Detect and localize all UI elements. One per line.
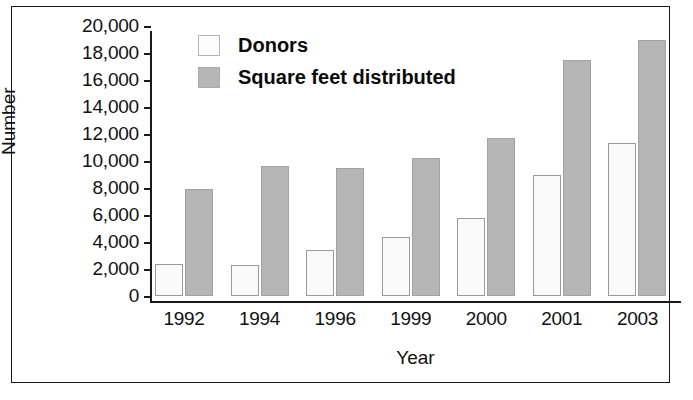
y-axis-tick-label: 16,000	[82, 69, 139, 91]
y-axis-title: Number	[0, 87, 20, 155]
x-axis-tick-label-2003: 2003	[617, 308, 658, 330]
chart-legend: DonorsSquare feet distributed	[198, 29, 456, 93]
bar-square-feet-distributed-2001	[563, 60, 591, 296]
figure-frame: Number 02,0004,0006,0008,00010,00012,000…	[11, 6, 670, 383]
bar-donors-2003	[608, 143, 636, 296]
y-axis-tick-label: 10,000	[82, 150, 139, 172]
x-axis-tick-label-1996: 1996	[315, 308, 356, 330]
legend-label: Donors	[238, 34, 308, 57]
bar-donors-1994	[231, 265, 259, 296]
x-axis-tick-label-1999: 1999	[390, 308, 431, 330]
chart-figure: Number 02,0004,0006,0008,00010,00012,000…	[0, 0, 693, 400]
y-axis-tick-label: 8,000	[92, 177, 139, 199]
bar-square-feet-distributed-1994	[261, 166, 289, 296]
bar-donors-2000	[457, 218, 485, 296]
y-axis-tick-label: 4,000	[92, 231, 139, 253]
bar-square-feet-distributed-2000	[487, 138, 515, 296]
legend-label: Square feet distributed	[238, 66, 456, 89]
sqft-swatch	[198, 67, 220, 88]
x-axis-line	[150, 301, 681, 303]
bar-donors-1992	[155, 264, 183, 296]
x-axis-tick-label-2000: 2000	[466, 308, 507, 330]
bar-donors-1996	[306, 250, 334, 296]
bar-square-feet-distributed-1992	[185, 189, 213, 296]
y-axis-tick-label: 18,000	[82, 42, 139, 64]
y-axis-tick-label: 2,000	[92, 258, 139, 280]
bar-square-feet-distributed-1999	[412, 158, 440, 296]
bar-donors-2001	[533, 175, 561, 297]
y-axis-tick-label: 0	[129, 285, 139, 307]
x-axis-tick-label-1992: 1992	[163, 308, 204, 330]
bar-square-feet-distributed-2003	[638, 40, 666, 297]
bar-donors-1999	[382, 237, 410, 296]
y-axis-tick-label: 6,000	[92, 204, 139, 226]
y-axis-tick-mark	[144, 296, 151, 298]
legend-item-square-feet-distributed: Square feet distributed	[198, 61, 456, 93]
y-axis-tick-label: 12,000	[82, 123, 139, 145]
y-axis-tick-label: 14,000	[82, 96, 139, 118]
donors-swatch	[198, 35, 220, 56]
legend-item-donors: Donors	[198, 29, 456, 61]
x-axis-tick-label-1994: 1994	[239, 308, 280, 330]
x-axis-title: Year	[151, 347, 680, 369]
x-axis-tick-label-2001: 2001	[541, 308, 582, 330]
y-axis-tick-label: 20,000	[82, 15, 139, 37]
bar-square-feet-distributed-1996	[336, 168, 364, 296]
